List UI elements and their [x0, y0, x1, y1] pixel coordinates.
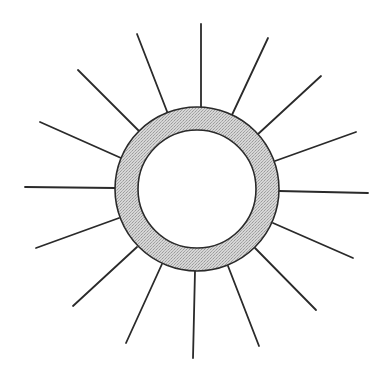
- ray-line-3: [275, 132, 356, 161]
- ray-line-13: [40, 122, 121, 158]
- ray-line-2: [257, 76, 321, 135]
- ray-line-14: [78, 70, 140, 132]
- sun-ring-diagram: [0, 0, 392, 378]
- ray-line-8: [193, 271, 195, 358]
- ring-inner-hole: [138, 130, 256, 248]
- ray-line-4: [279, 191, 368, 193]
- ray-line-11: [36, 218, 119, 248]
- ray-line-9: [126, 264, 162, 343]
- ray-line-7: [228, 266, 259, 346]
- ray-line-6: [255, 248, 316, 310]
- ray-line-5: [273, 223, 353, 258]
- ray-line-12: [25, 187, 115, 188]
- ray-line-15: [137, 34, 168, 114]
- ray-line-1: [231, 38, 268, 117]
- ray-line-10: [73, 247, 137, 306]
